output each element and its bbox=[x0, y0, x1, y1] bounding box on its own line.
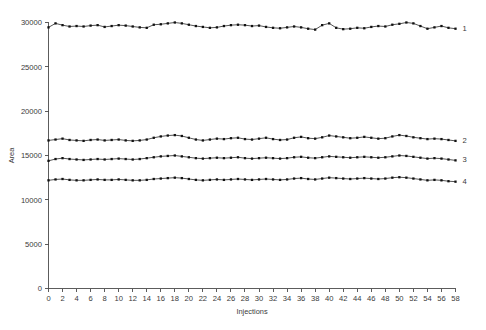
series-marker-2 bbox=[139, 139, 141, 141]
series-marker-4 bbox=[96, 178, 98, 180]
series-marker-1 bbox=[363, 27, 365, 29]
series-marker-4 bbox=[153, 178, 155, 180]
series-marker-1 bbox=[419, 25, 421, 27]
line-chart-plot: 0500010000150002000025000300000246810121… bbox=[0, 0, 486, 330]
series-marker-3 bbox=[426, 157, 428, 159]
x-tick-label: 28 bbox=[241, 294, 249, 303]
series-marker-2 bbox=[54, 138, 56, 140]
series-marker-3 bbox=[153, 156, 155, 158]
series-marker-2 bbox=[82, 140, 84, 142]
series-marker-1 bbox=[258, 24, 260, 26]
y-tick-label: 10000 bbox=[21, 196, 42, 205]
series-marker-2 bbox=[314, 138, 316, 140]
series-marker-3 bbox=[223, 157, 225, 159]
series-marker-4 bbox=[54, 178, 56, 180]
series-marker-1 bbox=[426, 28, 428, 30]
x-tick-label: 54 bbox=[423, 294, 431, 303]
series-marker-1 bbox=[237, 24, 239, 26]
x-tick-label: 52 bbox=[409, 294, 417, 303]
series-marker-1 bbox=[82, 25, 84, 27]
series-marker-3 bbox=[75, 158, 77, 160]
series-marker-1 bbox=[370, 26, 372, 28]
series-marker-4 bbox=[307, 178, 309, 180]
series-marker-1 bbox=[342, 28, 344, 30]
series-marker-2 bbox=[209, 138, 211, 140]
series-marker-2 bbox=[265, 137, 267, 139]
series-marker-4 bbox=[174, 177, 176, 179]
series-marker-3 bbox=[391, 155, 393, 157]
y-axis-title: Area bbox=[7, 147, 16, 164]
series-marker-4 bbox=[82, 179, 84, 181]
series-marker-3 bbox=[356, 156, 358, 158]
series-marker-1 bbox=[96, 24, 98, 26]
series-marker-3 bbox=[132, 158, 134, 160]
series-marker-3 bbox=[54, 158, 56, 160]
x-tick-label: 24 bbox=[213, 294, 221, 303]
series-marker-3 bbox=[216, 157, 218, 159]
series-marker-3 bbox=[398, 154, 400, 156]
series-marker-4 bbox=[125, 179, 127, 181]
x-tick-label: 40 bbox=[325, 294, 333, 303]
series-marker-1 bbox=[216, 26, 218, 28]
series-marker-4 bbox=[405, 177, 407, 179]
x-tick-label: 44 bbox=[353, 294, 361, 303]
series-marker-4 bbox=[47, 179, 49, 181]
series-marker-4 bbox=[237, 178, 239, 180]
series-marker-3 bbox=[174, 154, 176, 156]
series-marker-1 bbox=[377, 25, 379, 27]
series-marker-4 bbox=[202, 179, 204, 181]
series-marker-1 bbox=[125, 24, 127, 26]
series-marker-1 bbox=[412, 22, 414, 24]
series-marker-4 bbox=[286, 178, 288, 180]
series-marker-4 bbox=[370, 177, 372, 179]
series-marker-3 bbox=[251, 157, 253, 159]
series-marker-1 bbox=[384, 25, 386, 27]
series-marker-4 bbox=[216, 178, 218, 180]
series-marker-1 bbox=[307, 28, 309, 30]
series-marker-4 bbox=[146, 179, 148, 181]
series-marker-2 bbox=[230, 137, 232, 139]
series-marker-4 bbox=[363, 177, 365, 179]
x-tick-label: 20 bbox=[185, 294, 193, 303]
series-marker-1 bbox=[68, 25, 70, 27]
series-marker-1 bbox=[195, 25, 197, 27]
series-marker-1 bbox=[167, 22, 169, 24]
series-marker-1 bbox=[174, 21, 176, 23]
series-marker-1 bbox=[202, 26, 204, 28]
y-tick-label: 15000 bbox=[21, 151, 42, 160]
series-marker-1 bbox=[89, 24, 91, 26]
series-marker-1 bbox=[454, 28, 456, 30]
series-marker-3 bbox=[272, 157, 274, 159]
series-marker-3 bbox=[244, 157, 246, 159]
series-marker-1 bbox=[321, 24, 323, 26]
series-marker-2 bbox=[412, 136, 414, 138]
series-marker-3 bbox=[230, 157, 232, 159]
series-marker-3 bbox=[167, 155, 169, 157]
series-marker-1 bbox=[405, 21, 407, 23]
x-tick-label: 4 bbox=[74, 294, 78, 303]
series-marker-3 bbox=[237, 156, 239, 158]
series-group-4 bbox=[47, 176, 456, 183]
x-tick-label: 56 bbox=[437, 294, 445, 303]
series-marker-2 bbox=[349, 137, 351, 139]
series-marker-2 bbox=[377, 138, 379, 140]
series-marker-4 bbox=[111, 179, 113, 181]
series-marker-1 bbox=[391, 24, 393, 26]
series-marker-2 bbox=[328, 134, 330, 136]
series-marker-3 bbox=[47, 160, 49, 162]
y-tick-label: 0 bbox=[38, 284, 42, 293]
series-label-4: 4 bbox=[463, 177, 467, 186]
series-marker-2 bbox=[447, 139, 449, 141]
series-marker-1 bbox=[293, 25, 295, 27]
series-marker-4 bbox=[61, 178, 63, 180]
series-marker-1 bbox=[103, 26, 105, 28]
series-marker-1 bbox=[279, 27, 281, 29]
series-marker-2 bbox=[68, 139, 70, 141]
series-group-2 bbox=[47, 134, 456, 142]
series-marker-2 bbox=[195, 138, 197, 140]
series-marker-1 bbox=[111, 25, 113, 27]
series-marker-1 bbox=[188, 24, 190, 26]
series-marker-4 bbox=[272, 178, 274, 180]
series-marker-4 bbox=[314, 178, 316, 180]
series-marker-1 bbox=[398, 23, 400, 25]
